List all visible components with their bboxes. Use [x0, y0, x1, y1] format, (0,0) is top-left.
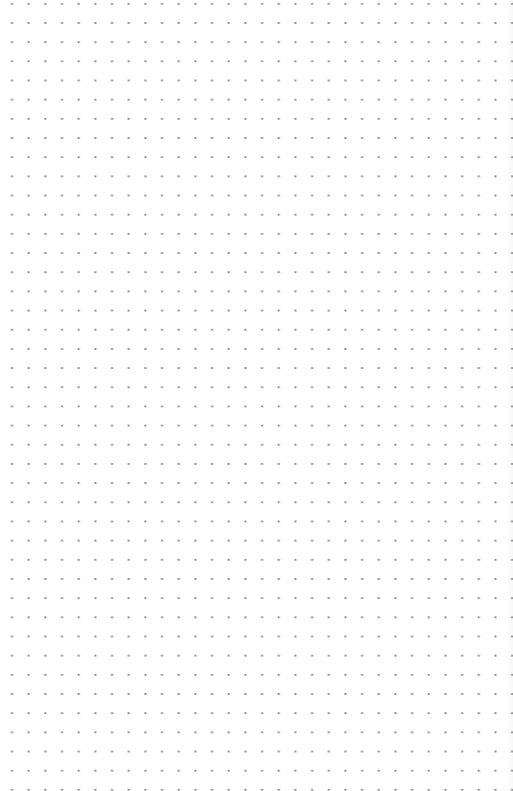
dot-grid-canvas[interactable]: [0, 0, 513, 791]
edge-shadow: [507, 0, 513, 791]
